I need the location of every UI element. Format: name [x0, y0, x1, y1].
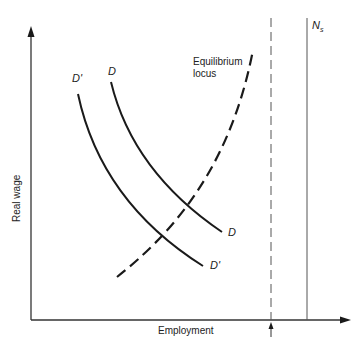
y-axis-arrowhead-icon: [28, 26, 35, 37]
d-prime-curve-label-end: D': [210, 259, 220, 271]
x-axis-arrowhead-icon: [340, 317, 351, 324]
d-curve-label-end: D: [228, 226, 236, 238]
equilibrium-locus-label: Equilibrium locus: [193, 56, 242, 80]
employment-marker-arrowhead-icon: [269, 322, 274, 329]
y-axis-label: Real wage: [11, 175, 22, 222]
ns-label: Ns: [312, 19, 323, 33]
ns-label-subscript: s: [320, 26, 324, 33]
ns-label-main: N: [312, 19, 320, 31]
d-curve-label-top: D: [108, 65, 116, 77]
equilibrium-locus-curve: [117, 50, 253, 277]
d-curve: [111, 82, 222, 232]
d-prime-curve-label-top: D': [72, 72, 82, 84]
equilibrium-locus-label-line1: Equilibrium: [193, 56, 242, 68]
x-axis-label: Employment: [158, 325, 214, 336]
diagram-canvas: [0, 0, 362, 350]
d-prime-curve: [78, 94, 203, 266]
equilibrium-locus-label-line2: locus: [193, 68, 242, 80]
